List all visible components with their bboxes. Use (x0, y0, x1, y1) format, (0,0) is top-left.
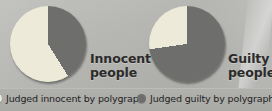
pie-chart-innocent-people (10, 6, 86, 82)
pie-label-guilty-line1: Guilty (228, 52, 272, 66)
pie-label-innocent-line1: Innocent (90, 52, 152, 66)
legend-label-judged-innocent: Judged innocent by polygraph (6, 93, 145, 104)
legend-item-judged-innocent: Judged innocent by polygraph (0, 93, 145, 104)
legend: Judged innocent by polygraph Judged guil… (0, 88, 272, 111)
pie-label-innocent-people: Innocent people (90, 52, 152, 79)
legend-swatch-judged-innocent-icon (0, 94, 2, 103)
legend-item-judged-guilty: Judged guilty by polygraph (137, 93, 272, 104)
pie-label-guilty-line2: people (228, 66, 272, 80)
pie-chart-guilty-people (149, 6, 225, 82)
legend-label-judged-guilty: Judged guilty by polygraph (150, 93, 272, 104)
pie-label-innocent-line2: people (90, 66, 152, 80)
legend-swatch-judged-guilty-icon (137, 94, 146, 103)
pie-label-guilty-people: Guilty people (228, 52, 272, 79)
polygraph-accuracy-figure: Innocent people Guilty people Judged inn… (0, 0, 272, 111)
